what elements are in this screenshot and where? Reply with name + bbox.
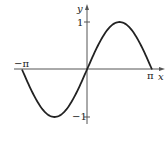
y-tick-label-1: 1 [77,17,83,28]
y-axis-label: y [76,3,83,14]
x-tick-label-pi: π [147,70,154,81]
x-axis-label: x [158,71,164,82]
y-tick-label-neg1: −1 [72,111,87,122]
sine-chart: y x −π π 1 −1 [0,0,167,142]
x-tick-label-neg-pi: −π [14,58,29,69]
y-axis-arrow-icon [85,4,89,10]
